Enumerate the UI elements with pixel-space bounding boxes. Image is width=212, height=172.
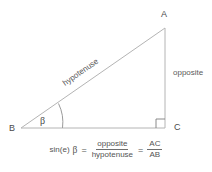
side-label-hypotenuse: hypotenuse: [61, 56, 101, 87]
formula-left-side: sin(e) β: [50, 145, 78, 155]
formula-ratio-letters-numerator: AC: [147, 140, 162, 150]
formula-equals-2: =: [138, 145, 143, 155]
vertex-label-b: B: [9, 123, 15, 133]
formula-ratio-words-numerator: opposite: [96, 140, 128, 150]
formula-variable-beta: β: [73, 145, 78, 155]
angle-arc-marker: [59, 104, 63, 128]
right-angle-marker: [156, 119, 165, 128]
side-hypotenuse-line: [21, 28, 165, 128]
formula-ratio-words-denominator: hypotenuse: [91, 150, 134, 159]
side-label-opposite: opposite: [173, 68, 204, 77]
formula-ratio-letters-denominator: AB: [148, 150, 163, 159]
vertex-label-c: C: [174, 122, 181, 132]
sine-formula: sin(e) β = opposite hypotenuse = AC AB: [0, 140, 212, 160]
formula-equals-1: =: [81, 145, 86, 155]
angle-label-beta: β: [40, 115, 45, 126]
formula-ratio-letters: AC AB: [147, 140, 162, 160]
formula-ratio-words: opposite hypotenuse: [91, 140, 134, 160]
diagram-canvas: A B C hypotenuse opposite β sin(e) β = o…: [0, 0, 212, 172]
formula-function-name: sin(e): [50, 145, 70, 154]
vertex-label-a: A: [161, 9, 167, 19]
